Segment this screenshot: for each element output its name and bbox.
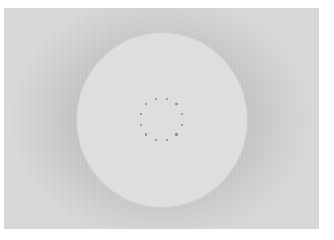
ring-dot [155, 98, 157, 100]
figure-canvas [0, 0, 334, 240]
ring-dot [155, 139, 157, 141]
ring-dot [181, 124, 183, 126]
ring-dot [140, 113, 142, 115]
ring-dot [166, 139, 168, 141]
ring-dot [175, 133, 177, 135]
ring-dot [181, 113, 183, 115]
ring-dot [140, 124, 142, 126]
light-disc [77, 33, 247, 207]
ring-dot [166, 98, 168, 100]
